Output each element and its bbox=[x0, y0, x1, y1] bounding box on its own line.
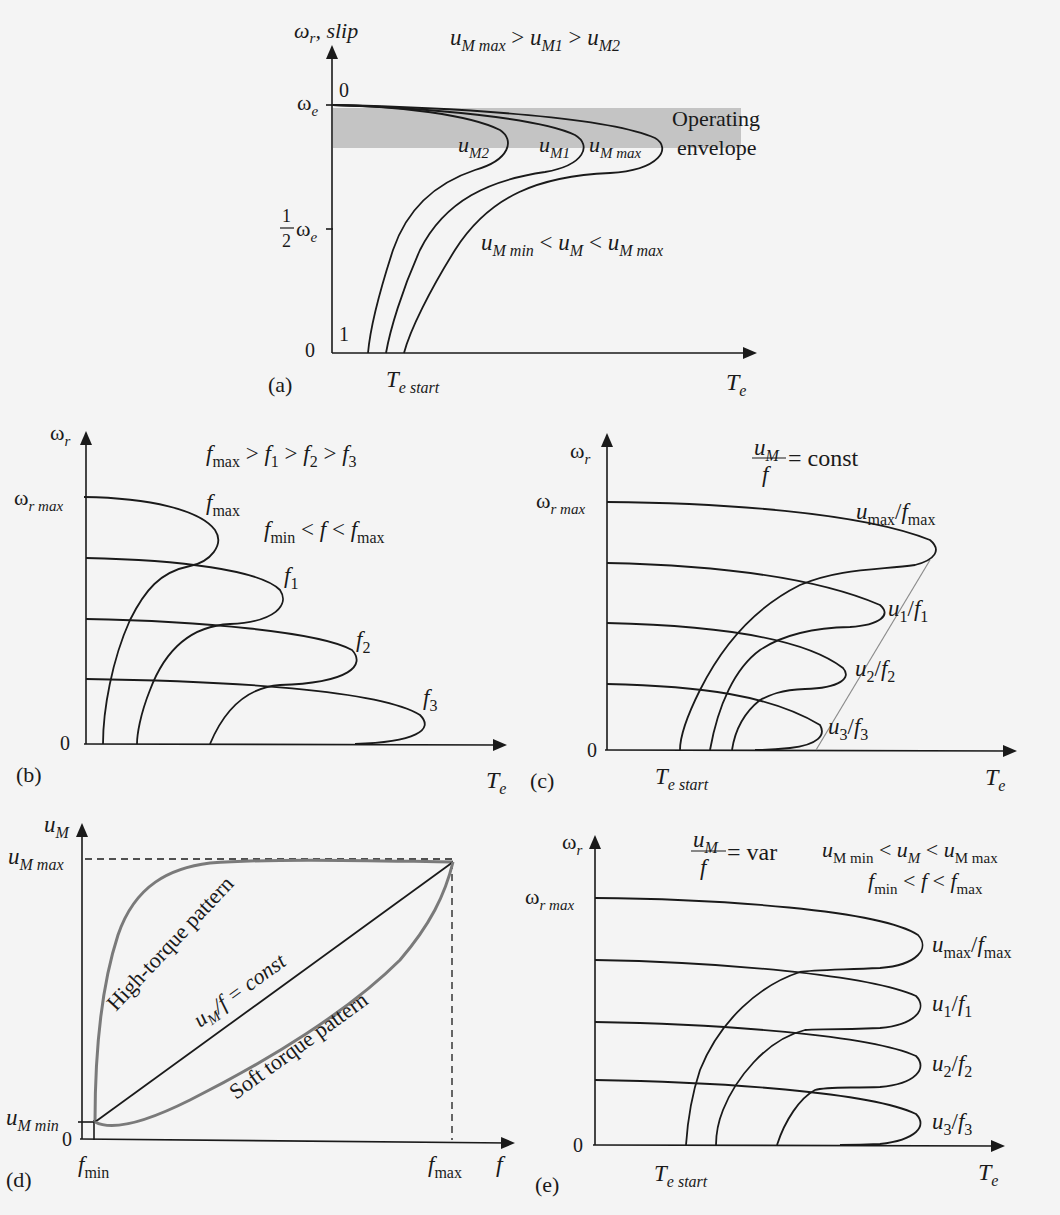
label-soft-torque-pattern: Soft torque pattern bbox=[224, 987, 372, 1104]
panel-e: ωr uM f = var uM min < uM < uM max fmin … bbox=[525, 827, 1011, 1197]
curve-label-fmax: fmax bbox=[206, 490, 240, 519]
curve-u1-f1 bbox=[607, 563, 885, 750]
curve-e-label-u2-f2: u2/f2 bbox=[932, 1051, 972, 1080]
panel-a-te-start: Te start bbox=[386, 367, 440, 396]
panel-a-tag: (a) bbox=[268, 372, 292, 397]
curve-e-label-u3-f3: u3/f3 bbox=[932, 1109, 972, 1138]
panel-b-frequency-relation: fmax > f1 > f2 > f3 bbox=[206, 441, 357, 470]
panel-e-y-axis-label: ωr bbox=[562, 829, 582, 858]
curve-e-u2-f2 bbox=[595, 1022, 921, 1145]
panel-b-x-axis bbox=[84, 744, 500, 745]
panel-c-frac-den: f bbox=[762, 462, 772, 487]
panel-e-origin: 0 bbox=[573, 1134, 583, 1156]
panel-c-te-start: Te start bbox=[655, 764, 709, 793]
line-constant-vf bbox=[95, 862, 453, 1122]
panel-a-tick-half-den: 2 bbox=[282, 231, 291, 251]
curve-label-f1: f1 bbox=[284, 563, 298, 592]
panel-d-tag: (d) bbox=[6, 1167, 32, 1192]
panel-e-voltage-range: uM min < uM < uM max bbox=[822, 837, 998, 866]
curve-e-label-umax-fmax: umax/fmax bbox=[932, 932, 1011, 961]
panel-e-frequency-range: fmin < f < fmax bbox=[868, 868, 983, 897]
panel-a-x-axis-label: Te bbox=[726, 369, 746, 399]
panel-a-voltage-relation: uM max > uM1 > uM2 bbox=[450, 25, 620, 54]
induction-motor-vf-characteristics-figure: ωr, slip uM max > uM1 > uM2 0 ωe 1 2 ωe … bbox=[0, 0, 1060, 1215]
panel-e-te-start: Te start bbox=[654, 1161, 708, 1190]
panel-a-tick-half-we: ωe bbox=[296, 216, 317, 245]
panel-a-tick-we-label: ωe bbox=[297, 90, 318, 119]
panel-a-voltage-range: uM min < uM < uM max bbox=[481, 230, 663, 259]
panel-c-tick-max: ωr max bbox=[536, 488, 585, 517]
panel-e-x-axis-label: Te bbox=[978, 1159, 998, 1189]
panel-b-frequency-range: fmin < f < fmax bbox=[264, 517, 385, 546]
operating-envelope-label-1: Operating bbox=[672, 106, 760, 131]
curve-label-u2-f2: u2/f2 bbox=[855, 656, 895, 685]
panel-c-frac-rhs: = const bbox=[788, 445, 859, 471]
panel-b-tick-max: ωr max bbox=[14, 485, 63, 514]
panel-d-fmin: fmin bbox=[78, 1152, 109, 1181]
panel-e-tag: (e) bbox=[535, 1172, 559, 1197]
panel-e-frac-num: uM bbox=[693, 827, 720, 856]
panel-d-tick-min: uM min bbox=[6, 1105, 59, 1134]
panel-c-x-axis-label: Te bbox=[985, 764, 1005, 794]
panel-e-x-axis bbox=[593, 1145, 998, 1146]
curve-e-u3-f3 bbox=[595, 1080, 921, 1145]
label-constant-vf: uM/f = const bbox=[188, 948, 293, 1035]
panel-c-frac-num: uM bbox=[754, 435, 781, 464]
curve-u2-f2 bbox=[607, 623, 846, 750]
panel-b-origin: 0 bbox=[60, 732, 70, 754]
curve-e-label-u1-f1: u1/f1 bbox=[932, 991, 972, 1020]
panel-d-x-axis bbox=[80, 1139, 508, 1143]
panel-d: uM uM max uM min 0 High-torque pattern u… bbox=[6, 812, 508, 1192]
panel-a-slip-one: 1 bbox=[339, 323, 349, 345]
panel-a: ωr, slip uM max > uM1 > uM2 0 ωe 1 2 ωe … bbox=[268, 18, 760, 399]
curve-f1 bbox=[86, 558, 283, 744]
panel-c-tag: (c) bbox=[530, 768, 554, 793]
panel-c-y-axis-label: ωr bbox=[570, 438, 590, 467]
curve-e-u1-f1 bbox=[595, 960, 921, 1145]
panel-b-tag: (b) bbox=[16, 762, 42, 787]
panel-e-tick-max: ωr max bbox=[525, 884, 574, 913]
panel-d-x-axis-label: f bbox=[496, 1151, 506, 1177]
curve-umax-fmax bbox=[607, 502, 936, 750]
panel-d-y-axis-label: uM bbox=[44, 812, 71, 841]
curve-label-u1-f1: u1/f1 bbox=[888, 596, 928, 625]
curve-f3 bbox=[86, 679, 425, 744]
curve-label-f3: f3 bbox=[423, 685, 437, 714]
panel-a-origin: 0 bbox=[305, 339, 315, 361]
curve-label-u3-f3: u3/f3 bbox=[828, 714, 868, 743]
panel-d-tick-max: uM max bbox=[8, 844, 63, 873]
panel-c-origin: 0 bbox=[587, 739, 597, 761]
panel-c-x-axis bbox=[605, 750, 1010, 751]
panel-b-y-axis-label: ωr bbox=[50, 420, 70, 449]
panel-a-slip-zero: 0 bbox=[339, 79, 349, 101]
curve-u3-f3 bbox=[607, 684, 822, 750]
panel-b-x-axis-label: Te bbox=[486, 767, 506, 797]
curve-label-umax-fmax: umax/fmax bbox=[856, 499, 935, 528]
curve-f2 bbox=[86, 619, 357, 744]
curve-e-umax-fmax bbox=[595, 898, 922, 1145]
panel-a-y-axis-label: ωr, slip bbox=[294, 18, 358, 46]
panel-b: ωr ωr max fmax > f1 > f2 > f3 fmax fmin … bbox=[14, 420, 506, 797]
curve-label-f2: f2 bbox=[356, 627, 370, 656]
panel-e-frac-rhs: = var bbox=[727, 839, 777, 865]
operating-envelope-label-2: envelope bbox=[677, 135, 756, 160]
panel-c: ωr uM f = const ωr max umax/fmax u1/f1 u… bbox=[530, 435, 1010, 794]
panel-d-origin: 0 bbox=[62, 1128, 72, 1150]
panel-e-frac-den: f bbox=[700, 855, 710, 880]
panel-a-tick-half-num: 1 bbox=[282, 206, 291, 226]
panel-d-fmax: fmax bbox=[428, 1152, 462, 1181]
